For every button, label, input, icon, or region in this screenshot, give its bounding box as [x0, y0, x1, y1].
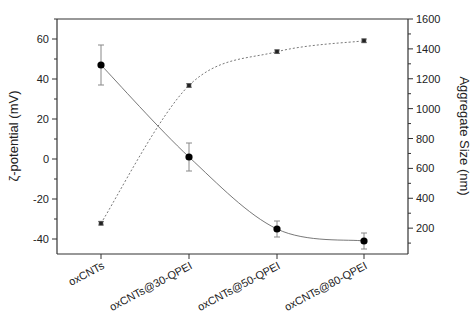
data-point-square [187, 83, 191, 87]
series-zeta-potential [97, 45, 367, 249]
data-point-circle [97, 61, 104, 68]
x-tick-label: oxCNTs@50-QPEI [195, 259, 282, 313]
right-y-axis: 2004006008001000120014001600 [408, 13, 440, 243]
x-tick-label: oxCNTs@30-QPEI [107, 259, 194, 313]
left-tick-label: 0 [43, 153, 49, 165]
right-axis-title: Aggregate Size (nm) [457, 76, 472, 195]
left-tick-label: -20 [33, 193, 49, 205]
right-tick-label: 1400 [416, 43, 440, 55]
data-point-circle [185, 153, 192, 160]
dual-axis-chart: -40-200204060 20040060080010001200140016… [0, 0, 472, 322]
x-axis: oxCNTsoxCNTs@30-QPEIoxCNTs@50-QPEIoxCNTs… [66, 254, 369, 313]
data-point-square [275, 50, 279, 54]
x-tick-label: oxCNTs [66, 259, 106, 288]
series-line [101, 65, 364, 241]
right-tick-label: 1600 [416, 13, 440, 25]
right-tick-label: 1000 [416, 103, 440, 115]
right-tick-label: 600 [416, 162, 434, 174]
data-point-square [99, 221, 103, 225]
series-layer [97, 39, 367, 249]
right-tick-label: 400 [416, 192, 434, 204]
x-tick-label: oxCNTs@80-QPEI [282, 259, 369, 313]
plot-frame [57, 19, 408, 254]
left-tick-label: 40 [37, 73, 49, 85]
series-line [101, 41, 364, 223]
data-point-circle [360, 237, 367, 244]
data-point-circle [273, 225, 280, 232]
left-tick-label: -40 [33, 233, 49, 245]
right-tick-label: 800 [416, 133, 434, 145]
left-y-axis: -40-200204060 [33, 19, 57, 245]
right-tick-label: 200 [416, 222, 434, 234]
left-tick-label: 60 [37, 33, 49, 45]
left-tick-label: 20 [37, 113, 49, 125]
left-axis-title: ζ-potential (mV) [6, 91, 21, 182]
data-point-square [362, 39, 366, 43]
right-tick-label: 1200 [416, 73, 440, 85]
